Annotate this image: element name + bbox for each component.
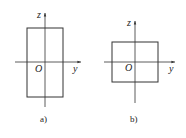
origin-label-b: O [125, 62, 132, 73]
z-label-a: z [36, 9, 41, 20]
y-label-a: y [72, 63, 78, 74]
figure-b: z O y b) [104, 17, 175, 124]
caption-b: b) [130, 114, 138, 124]
z-label-b: z [126, 17, 131, 28]
caption-a: a) [40, 114, 47, 124]
origin-label-a: O [35, 63, 42, 74]
y-label-b: y [168, 63, 174, 74]
diagram-canvas: z O y a) z O y b) [0, 0, 186, 138]
figure-a: z O y a) [15, 9, 81, 124]
